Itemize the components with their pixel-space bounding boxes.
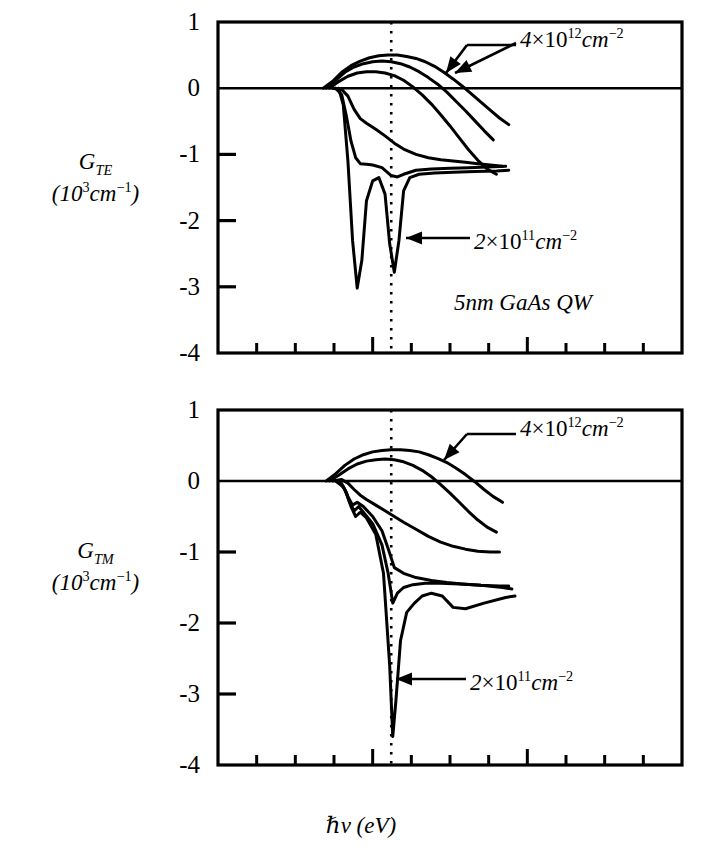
material-note: 5nm GaAs QW <box>454 290 592 316</box>
annotation-te-low: 2×1011cm−2 <box>474 227 577 255</box>
curve-te-n=2e11 <box>339 88 509 288</box>
annotation-tm-low: 2×1011cm−2 <box>470 668 573 696</box>
x-axis-label-nu: ν <box>341 813 351 838</box>
curve-tm-n=2e11 <box>340 481 515 737</box>
y-tick-label-te-4: -3 <box>179 273 200 300</box>
y-tick-label-tm-3: -2 <box>179 609 200 636</box>
y-tick-label-te-3: -2 <box>179 207 200 234</box>
y-tick-label-tm-4: -3 <box>179 680 200 707</box>
y-tick-label-tm-0: 1 <box>188 396 201 423</box>
y-axis-label-tm-symbol: GTM <box>77 538 113 563</box>
y-tick-label-tm-1: 0 <box>188 467 201 494</box>
y-tick-label-te-5: -4 <box>179 339 200 366</box>
y-tick-label-tm-5: -4 <box>179 751 200 778</box>
y-axis-label-te-units: (103cm−1) <box>52 181 139 206</box>
x-axis-label: ℏν (eV) <box>296 812 426 841</box>
x-axis-label-unit: (eV) <box>357 813 397 838</box>
plot-frame-te <box>218 22 682 353</box>
arrow-te-low-head <box>406 232 422 245</box>
y-axis-label-tm-units: (103cm−1) <box>52 570 139 595</box>
curve-tm-n=4e12 <box>326 450 502 503</box>
curve-tm-n=3e12 <box>329 459 496 532</box>
y-axis-label-te: GTE (103cm−1) <box>8 148 183 209</box>
y-axis-label-te-symbol: GTE <box>79 149 112 174</box>
y-tick-label-te-0: 1 <box>188 8 201 35</box>
annotation-te-high: 4×1012cm−2 <box>520 25 624 53</box>
x-axis-label-hbar: ℏ <box>326 813 341 838</box>
y-tick-label-te-1: 0 <box>188 74 201 101</box>
y-axis-label-tm: GTM (103cm−1) <box>8 537 183 598</box>
annotation-tm-high: 4×1012cm−2 <box>520 414 624 442</box>
